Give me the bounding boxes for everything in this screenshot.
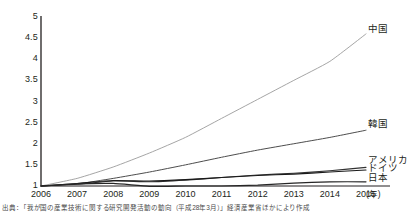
series-label-韓国: 韓国 xyxy=(368,119,388,129)
x-axis-tick-2007: 2007 xyxy=(67,189,87,199)
x-axis-tick-2012: 2012 xyxy=(248,189,268,199)
x-axis-unit-label: (年) xyxy=(366,189,381,199)
x-axis-tick-2014: 2014 xyxy=(320,189,340,199)
x-axis-tick-2009: 2009 xyxy=(139,189,159,199)
chart-series-lines xyxy=(41,34,366,187)
x-axis-tick-2008: 2008 xyxy=(103,189,123,199)
chart-axes xyxy=(41,16,390,186)
series-line-韓国 xyxy=(41,130,366,186)
source-note: 出典：「我が国の産業技術に関する研究開発活動の動向（平成28年3月）」経済産業省… xyxy=(2,204,392,212)
x-axis-tick-2011: 2011 xyxy=(212,189,231,199)
series-label-日本: 日本 xyxy=(368,173,388,183)
series-line-中国 xyxy=(41,34,366,186)
x-axis-tick-2006: 2006 xyxy=(31,189,51,199)
x-axis-tick-2013: 2013 xyxy=(284,189,304,199)
x-axis-tick-2010: 2010 xyxy=(175,189,195,199)
series-label-中国: 中国 xyxy=(368,24,388,34)
